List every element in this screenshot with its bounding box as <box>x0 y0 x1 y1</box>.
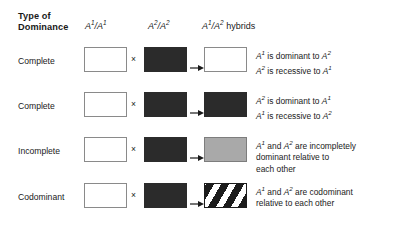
row-label-dominance-type: Complete <box>18 101 55 111</box>
row-description: A1 and A2 are codominant relative to eac… <box>256 183 353 210</box>
parent1-allele-box <box>84 92 127 117</box>
description-line: A1 and A2 are incompletely <box>256 137 356 152</box>
parent2-allele-box <box>144 92 187 117</box>
header-type-line1: Type of <box>18 11 51 21</box>
description-line: A2 is dominant to A1 <box>256 92 332 107</box>
description-line: A2 is recessive to A1 <box>256 62 332 77</box>
dominance-type-figure: Type of Dominance A1/A1 A2/A2 A1/A2 hybr… <box>0 0 397 231</box>
hybrid-allele-box <box>204 47 247 72</box>
table-row: Codominant × A1 and A2 are codominant re… <box>0 176 397 221</box>
header-column-a2a2: A2/A2 <box>148 19 170 31</box>
arrow-right-icon <box>190 194 204 202</box>
header-column-a1a1: A1/A1 <box>85 19 107 31</box>
cross-symbol-icon: × <box>131 190 136 200</box>
row-description: A1 and A2 are incompletely dominant rela… <box>256 137 356 175</box>
description-line: dominant relative to <box>256 152 356 163</box>
table-row: Incomplete × A1 and A2 are incompletely … <box>0 130 397 175</box>
parent2-allele-box <box>144 47 187 72</box>
parent1-allele-box <box>84 183 127 208</box>
row-label-dominance-type: Codominant <box>18 192 64 202</box>
header-column-a1a2-hybrids: A1/A2 hybrids <box>202 19 255 31</box>
row-label-dominance-type: Complete <box>18 56 55 66</box>
parent1-allele-box <box>84 137 127 162</box>
row-description: A1 is dominant to A2 A2 is recessive to … <box>256 47 332 77</box>
parent2-allele-box <box>144 183 187 208</box>
description-line: A1 is dominant to A2 <box>256 47 332 62</box>
cross-symbol-icon: × <box>131 99 136 109</box>
description-line: A1 is recessive to A2 <box>256 107 332 122</box>
row-description: A2 is dominant to A1 A1 is recessive to … <box>256 92 332 122</box>
hybrid-allele-box <box>204 92 247 117</box>
header-type-of-dominance: Type of Dominance <box>18 11 68 33</box>
arrow-right-icon <box>190 58 204 66</box>
parent1-allele-box <box>84 47 127 72</box>
description-line: relative to each other <box>256 198 353 209</box>
figure-header: Type of Dominance A1/A1 A2/A2 A1/A2 hybr… <box>0 0 397 40</box>
cross-symbol-icon: × <box>131 144 136 154</box>
arrow-right-icon <box>190 103 204 111</box>
arrow-right-icon <box>190 148 204 156</box>
cross-symbol-icon: × <box>131 54 136 64</box>
parent2-allele-box <box>144 137 187 162</box>
header-type-line2: Dominance <box>18 22 68 32</box>
hybrid-allele-box <box>204 137 247 162</box>
table-row: Complete × A1 is dominant to A2 A2 is re… <box>0 40 397 85</box>
row-label-dominance-type: Incomplete <box>18 146 60 156</box>
table-row: Complete × A2 is dominant to A1 A1 is re… <box>0 85 397 130</box>
description-line: A1 and A2 are codominant <box>256 183 353 198</box>
hybrid-allele-box <box>204 183 247 208</box>
description-line: each other <box>256 164 356 175</box>
